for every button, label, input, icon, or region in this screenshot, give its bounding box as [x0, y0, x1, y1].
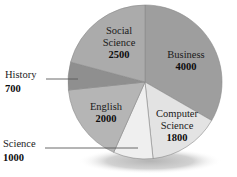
ext-value-history: 700: [5, 83, 21, 94]
ext-label-history: History: [5, 69, 37, 80]
slice-value-computer-science: 1800: [167, 132, 188, 143]
pie-chart: Business 4000 Computer Science 1800 Engl…: [0, 0, 237, 177]
slice-label-social-science-line1: Social: [106, 25, 132, 36]
pie-chart-canvas: Business 4000 Computer Science 1800 Engl…: [0, 0, 237, 177]
slice-value-business: 4000: [176, 61, 197, 72]
slice-value-english: 2000: [96, 113, 117, 124]
slice-label-business: Business: [167, 49, 204, 60]
slice-value-social-science: 2500: [109, 49, 130, 60]
ext-value-science: 1000: [3, 152, 24, 163]
slice-label-social-science-line2: Science: [103, 37, 136, 48]
slice-label-english: English: [90, 101, 123, 112]
ext-label-science: Science: [3, 138, 36, 149]
slice-label-computer-science-line1: Computer: [156, 108, 198, 119]
slice-label-computer-science-line2: Science: [161, 120, 194, 131]
